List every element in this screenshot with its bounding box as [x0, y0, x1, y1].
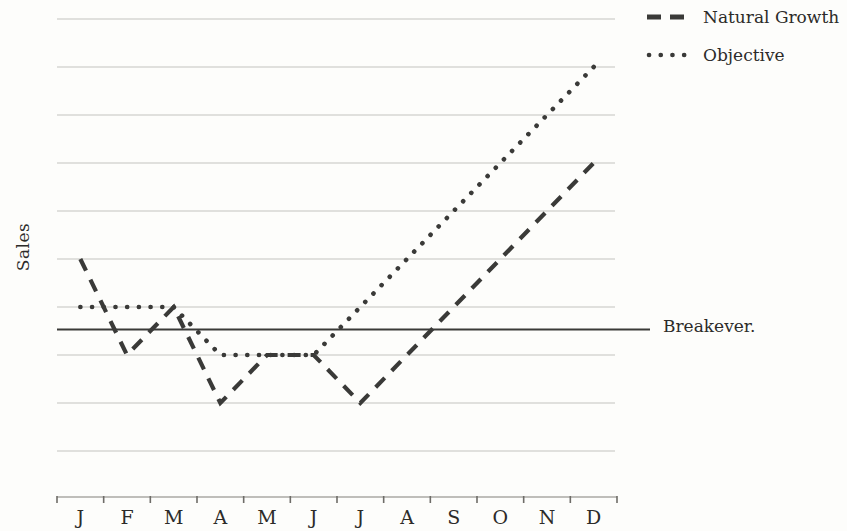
x-tick-label: S	[447, 506, 460, 528]
x-tick-label: F	[120, 506, 133, 528]
x-tick-label: O	[493, 506, 509, 528]
breakeven-label: Breakever.	[663, 316, 756, 336]
legend-item-objective: Objective	[646, 43, 839, 66]
x-tick-label: J	[75, 506, 85, 528]
legend-item-natural-growth: Natural Growth	[646, 5, 839, 28]
x-tick-label: M	[257, 506, 276, 528]
x-tick-label: N	[539, 506, 556, 528]
legend-label-natural-growth: Natural Growth	[703, 7, 839, 27]
y-axis-label: Sales	[13, 223, 33, 272]
legend-label-objective: Objective	[703, 45, 785, 65]
x-tick-label: J	[308, 506, 318, 528]
chart-canvas: JFMAMJJASOND Sales Natural Growth Object…	[0, 0, 847, 531]
series-natural-growth	[80, 163, 593, 403]
x-tick-label: D	[586, 506, 601, 528]
legend: Natural Growth Objective	[646, 5, 839, 66]
line-chart-plot: JFMAMJJASOND	[0, 0, 847, 531]
x-tick-label: A	[399, 506, 414, 528]
x-tick-label: A	[212, 506, 227, 528]
dotted-line-sample-icon	[646, 50, 692, 60]
dashed-line-sample-icon	[646, 12, 692, 22]
x-tick-label: M	[164, 506, 183, 528]
x-tick-label: J	[355, 506, 365, 528]
